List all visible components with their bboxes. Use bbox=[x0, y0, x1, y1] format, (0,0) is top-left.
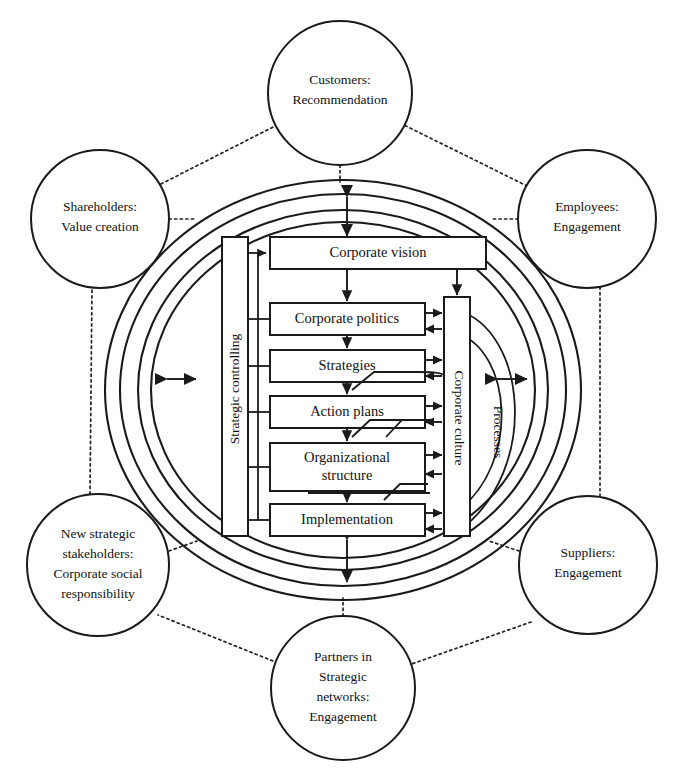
circle-new-strategic-stakeholders-line2: stakeholders: bbox=[62, 546, 133, 561]
controlling-connectors bbox=[248, 253, 270, 520]
circle-new-strategic-stakeholders[interactable]: New strategic stakeholders: Corporate so… bbox=[27, 494, 169, 636]
circle-employees-line2: Engagement bbox=[553, 219, 621, 234]
corporate-culture-label: Corporate culture bbox=[452, 371, 467, 466]
circle-customers-line2: Recommendation bbox=[292, 92, 387, 107]
diagram-canvas: Strategic controlling Corporate culture … bbox=[0, 0, 684, 770]
box-organizational-structure-label-line2: structure bbox=[322, 467, 373, 483]
circle-suppliers-line1: Suppliers: bbox=[561, 545, 616, 560]
box-strategies-label: Strategies bbox=[318, 357, 376, 373]
circle-partners-line4: Engagement bbox=[309, 709, 377, 724]
circle-shareholders-line1: Shareholders: bbox=[63, 199, 137, 214]
corporate-culture-bar: Corporate culture bbox=[444, 297, 470, 536]
strategic-controlling-bar: Strategic controlling bbox=[222, 237, 248, 536]
link-new-stakeholders-shareholders bbox=[90, 288, 92, 494]
circle-employees[interactable]: Employees: Engagement bbox=[518, 150, 656, 288]
circle-customers-line1: Customers: bbox=[309, 72, 371, 87]
stakeholder-strategy-diagram: Strategic controlling Corporate culture … bbox=[0, 0, 684, 770]
circle-new-strategic-stakeholders-line4: responsibility bbox=[61, 586, 135, 601]
circle-employees-line1: Employees: bbox=[555, 199, 619, 214]
circle-shareholders[interactable]: Shareholders: Value creation bbox=[31, 150, 169, 288]
link-customers-employees bbox=[400, 123, 527, 186]
circle-partners-line1: Partners in bbox=[314, 649, 372, 664]
circle-customers[interactable]: Customers: Recommendation bbox=[268, 21, 412, 165]
link-suppliers-partners bbox=[406, 622, 531, 666]
circle-partners-shape[interactable] bbox=[271, 616, 415, 760]
circle-partners[interactable]: Partners in Strategic networks: Engageme… bbox=[271, 616, 415, 760]
link-shareholders-customers bbox=[161, 123, 281, 184]
link-partners-new-stakeholders bbox=[158, 615, 278, 663]
circle-shareholders-line2: Value creation bbox=[61, 219, 139, 234]
box-corporate-vision-label: Corporate vision bbox=[329, 244, 427, 260]
circle-suppliers[interactable]: Suppliers: Engagement bbox=[519, 496, 657, 634]
circle-new-strategic-stakeholders-shape[interactable] bbox=[27, 494, 169, 636]
box-implementation-label: Implementation bbox=[301, 511, 394, 527]
processes-label: Processes bbox=[491, 406, 506, 459]
culture-exchange-arrows bbox=[425, 313, 442, 529]
strategic-controlling-label: Strategic controlling bbox=[227, 333, 242, 444]
box-organizational-structure-label-line1: Organizational bbox=[304, 449, 390, 465]
outer-stakeholder-circles: Customers: Recommendation Shareholders: … bbox=[27, 21, 657, 760]
circle-partners-line2: Strategic bbox=[319, 669, 367, 684]
circle-suppliers-line2: Engagement bbox=[554, 565, 622, 580]
circle-new-strategic-stakeholders-line3: Corporate social bbox=[54, 566, 143, 581]
circle-partners-line3: networks: bbox=[316, 689, 369, 704]
box-corporate-politics-label: Corporate politics bbox=[295, 310, 400, 326]
circle-new-strategic-stakeholders-line1: New strategic bbox=[61, 526, 136, 541]
box-action-plans-label: Action plans bbox=[310, 403, 384, 419]
